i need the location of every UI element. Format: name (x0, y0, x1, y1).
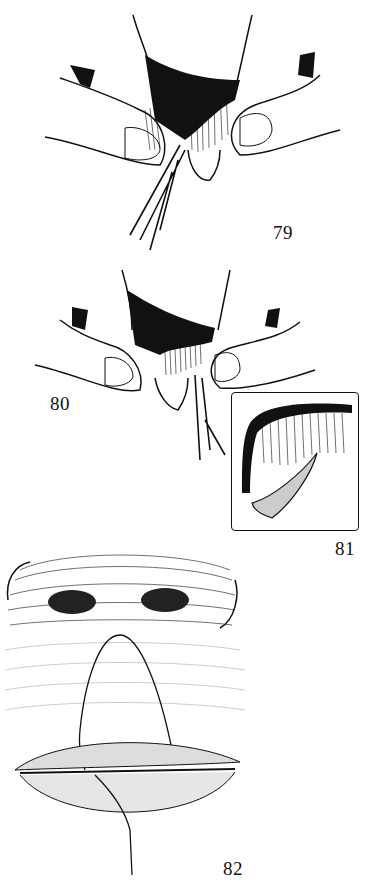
figure-82-illustration (0, 540, 372, 894)
figure-number-79: 79 (273, 222, 293, 244)
figure-number-80: 80 (50, 393, 70, 415)
figure-79-illustration (0, 0, 372, 260)
figure-82: 82 (0, 540, 372, 894)
figure-81-illustration (232, 393, 358, 530)
figure-number-82: 82 (223, 858, 243, 880)
figure-79: 79 (0, 0, 372, 260)
figure-81-inset (231, 392, 359, 531)
